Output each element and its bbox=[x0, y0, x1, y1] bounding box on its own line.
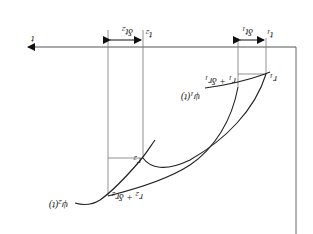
trajectory-diagram: t t1 δt1 t2 δt2 r1 r1 + δr1 ψ1(t) r2 r2 … bbox=[0, 0, 313, 234]
label-t1: t1 bbox=[267, 28, 273, 41]
label-psi2: ψ2(t) bbox=[48, 198, 68, 211]
axis-label-t: t bbox=[31, 34, 34, 45]
label-r1-plus-dr1: r1 + δr1 bbox=[205, 74, 236, 87]
label-r1: r1 bbox=[270, 72, 277, 85]
curve-psi1-branch bbox=[108, 87, 238, 196]
label-r2: r2 bbox=[133, 154, 141, 167]
svg-text:t: t bbox=[31, 34, 34, 45]
label-t2: t2 bbox=[145, 28, 152, 41]
label-dt1: δt1 bbox=[242, 25, 253, 38]
label-dt2: δt2 bbox=[122, 25, 133, 38]
label-psi1: ψ1(t) bbox=[180, 90, 200, 103]
label-r2-plus-dr2: r2 + δr2 bbox=[111, 190, 143, 203]
